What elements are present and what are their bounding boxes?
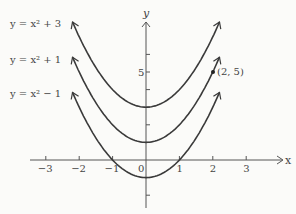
x-tick-label: 2 [210, 164, 216, 174]
x-tick-label: −2 [71, 164, 86, 174]
x-tick-label: −1 [105, 164, 120, 174]
point-2-5 [211, 70, 215, 74]
curve-label-x2-plus-3: y = x² + 3 [10, 19, 61, 29]
curve-label-x2-minus-1: y = x² − 1 [10, 89, 61, 99]
x-tick-label: 3 [243, 164, 249, 174]
point-label: (2, 5) [217, 67, 244, 77]
x-tick-label: 0 [138, 164, 144, 174]
curve-label-x2-plus-1: y = x² + 1 [10, 55, 61, 65]
x-tick-label: −3 [38, 164, 53, 174]
y-tick-label-5: 5 [138, 68, 144, 78]
graph-canvas [0, 0, 296, 214]
y-axis-label: y [143, 8, 149, 19]
x-axis-label: x [285, 155, 291, 166]
x-tick-label: 1 [176, 164, 182, 174]
